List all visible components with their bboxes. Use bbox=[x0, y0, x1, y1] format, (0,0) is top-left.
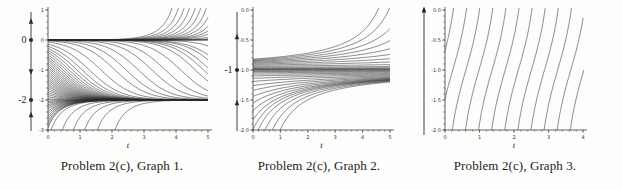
x-tick-label: 0 bbox=[251, 134, 254, 140]
caption-graph-3: Problem 2(c), Graph 3. bbox=[454, 158, 576, 174]
solution-curve bbox=[48, 0, 192, 40]
y-tick-label: 1 bbox=[41, 7, 44, 13]
x-tick-label: 4 bbox=[174, 134, 177, 140]
y-tick-label: -2.0 bbox=[239, 127, 249, 133]
flow-arrow-up bbox=[29, 112, 34, 118]
y-tick-label: 0.0 bbox=[241, 7, 249, 13]
y-tick-label: -3 bbox=[39, 127, 44, 133]
graph-panel-1: 10-1-2-3012345t0-2 bbox=[18, 0, 212, 150]
ticks bbox=[45, 10, 208, 133]
phase-line bbox=[422, 7, 427, 136]
solution-curves bbox=[253, 0, 390, 151]
caption-graph-2: Problem 2(c), Graph 2. bbox=[258, 158, 380, 174]
solution-curve bbox=[48, 100, 208, 141]
solution-curve bbox=[253, 74, 390, 76]
y-tick-label: 0.0 bbox=[433, 7, 441, 13]
x-axis-title: t bbox=[513, 140, 516, 150]
solution-curve bbox=[253, 29, 390, 61]
graph-panel-2: 0.0-0.5-1.0-1.5-2.0012345t-1 bbox=[224, 0, 394, 151]
y-tick-label: -1 bbox=[39, 67, 44, 73]
solution-curve bbox=[273, 82, 390, 151]
solution-curve bbox=[112, 100, 208, 141]
axes bbox=[444, 7, 587, 131]
x-tick-label: 2 bbox=[306, 134, 309, 140]
x-tick-label: 1 bbox=[279, 134, 282, 140]
flow-arrow-up bbox=[29, 18, 34, 24]
x-tick-label: 2 bbox=[110, 134, 113, 140]
equilibrium-dot bbox=[29, 38, 33, 42]
solution-curve bbox=[48, 57, 208, 100]
x-tick-label: 1 bbox=[78, 134, 81, 140]
y-tick-label: -1.5 bbox=[431, 97, 441, 103]
equilibrium-label: 0 bbox=[22, 34, 27, 45]
equilibrium-label: -2 bbox=[18, 94, 26, 105]
solution-curve bbox=[48, 0, 203, 40]
solution-curve bbox=[253, 7, 390, 60]
solution-curve bbox=[253, 0, 385, 59]
solution-curve bbox=[48, 0, 174, 40]
y-tick-label: -0.5 bbox=[239, 37, 249, 43]
graph-panel-3: 0.0-0.5-1.0-1.5-2.001234t bbox=[422, 0, 587, 152]
solution-curve bbox=[445, 0, 469, 99]
solution-curves bbox=[48, 0, 208, 141]
x-tick-label: 3 bbox=[547, 134, 550, 140]
y-tick-label: -2.0 bbox=[431, 127, 441, 133]
x-tick-label: 0 bbox=[46, 134, 49, 140]
x-tick-label: 0 bbox=[443, 134, 446, 140]
solution-curve bbox=[253, 80, 390, 129]
tick-labels: 0.0-0.5-1.0-1.5-2.001234 bbox=[431, 7, 584, 140]
equilibrium-dot bbox=[235, 68, 239, 72]
solution-curves bbox=[440, 0, 584, 152]
y-tick-label: -1.0 bbox=[239, 67, 249, 73]
x-tick-label: 1 bbox=[478, 134, 481, 140]
solution-curve bbox=[48, 0, 181, 40]
x-axis-title: t bbox=[320, 140, 323, 150]
phase-line: 0-2 bbox=[18, 12, 33, 131]
solution-curve bbox=[48, 0, 198, 40]
x-tick-label: 2 bbox=[512, 134, 515, 140]
solution-curve bbox=[70, 100, 208, 141]
y-tick-label: -2 bbox=[39, 97, 44, 103]
solution-curve bbox=[253, 67, 390, 68]
y-tick-label: 0 bbox=[41, 37, 44, 43]
solution-curve bbox=[253, 72, 390, 73]
y-tick-label: -0.5 bbox=[431, 37, 441, 43]
axis-arrowhead bbox=[422, 7, 427, 13]
solution-curve bbox=[48, 44, 208, 100]
equilibrium-label: -1 bbox=[224, 64, 232, 75]
x-tick-label: 5 bbox=[206, 134, 209, 140]
solution-curve bbox=[48, 0, 187, 40]
solution-curve bbox=[253, 80, 390, 120]
solution-curve bbox=[258, 81, 390, 151]
x-axis-title: t bbox=[127, 140, 130, 150]
x-tick-label: 4 bbox=[581, 134, 584, 140]
y-tick-label: -1.0 bbox=[431, 67, 441, 73]
y-tick-label: -1.5 bbox=[239, 97, 249, 103]
phase-line: -1 bbox=[224, 12, 239, 131]
x-tick-label: 3 bbox=[142, 134, 145, 140]
x-tick-label: 4 bbox=[361, 134, 364, 140]
solution-curve bbox=[555, 18, 584, 152]
solution-curve bbox=[440, 0, 456, 70]
scanned-figure-page: 10-1-2-3012345t0-20.0-0.5-1.0-1.5-2.0012… bbox=[0, 0, 622, 189]
x-tick-label: 5 bbox=[388, 134, 391, 140]
caption-graph-1: Problem 2(c), Graph 1. bbox=[61, 158, 183, 174]
x-tick-label: 3 bbox=[334, 134, 337, 140]
equilibrium-dot bbox=[29, 98, 33, 102]
flow-arrow-down bbox=[29, 69, 34, 75]
